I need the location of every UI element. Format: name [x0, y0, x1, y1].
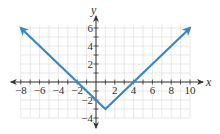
y-tick-label: 2 — [88, 58, 94, 70]
y-tick-label: 6 — [88, 22, 94, 34]
x-tick-label: 6 — [150, 84, 156, 96]
y-tick-label: 4 — [88, 40, 94, 52]
graph: −8−6−4−2246810−4−2246 x y — [0, 0, 220, 134]
x-axis-label: x — [205, 75, 212, 89]
y-tick-label: −4 — [81, 112, 93, 124]
x-tick-label: 8 — [168, 84, 174, 96]
x-tick-label: −4 — [53, 84, 65, 96]
x-tick-label: 4 — [131, 84, 137, 96]
x-tick-label: −8 — [15, 84, 27, 96]
x-tick-label: 2 — [112, 84, 118, 96]
x-tick-label: −6 — [34, 84, 46, 96]
x-tick-label: 10 — [185, 84, 197, 96]
y-axis-label: y — [90, 3, 97, 17]
grid — [21, 25, 190, 118]
